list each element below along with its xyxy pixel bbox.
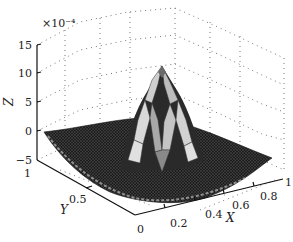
z-axis-label: Z bbox=[2, 97, 16, 107]
x-tick-0-8: 0.8 bbox=[260, 190, 278, 203]
y-axis-label: Y bbox=[60, 203, 69, 217]
z-tick-labels: 15 10 5 0 −5 bbox=[16, 39, 32, 167]
surface bbox=[44, 66, 272, 203]
z-tick-5: 5 bbox=[25, 96, 32, 109]
y-tick-1: 1 bbox=[24, 167, 31, 180]
y-tick-0: 0 bbox=[137, 223, 144, 236]
z-tick-15: 15 bbox=[18, 39, 32, 52]
x-tick-0-6: 0.6 bbox=[232, 199, 250, 212]
z-scale-label: ×10⁻⁴ bbox=[42, 17, 76, 30]
surface-plot: 15 10 5 0 −5 ×10⁻⁴ Z 1 0.5 0 Y 0.2 0.4 0… bbox=[0, 0, 293, 242]
x-tick-0-4: 0.4 bbox=[205, 208, 223, 221]
z-tick-10: 10 bbox=[18, 67, 32, 80]
x-axis-label: X bbox=[225, 211, 235, 225]
z-tick-neg5: −5 bbox=[16, 154, 32, 167]
x-tick-0-2: 0.2 bbox=[170, 217, 188, 230]
z-tick-0: 0 bbox=[25, 125, 32, 138]
x-tick-1: 1 bbox=[285, 176, 292, 189]
y-tick-0-5: 0.5 bbox=[69, 193, 87, 206]
